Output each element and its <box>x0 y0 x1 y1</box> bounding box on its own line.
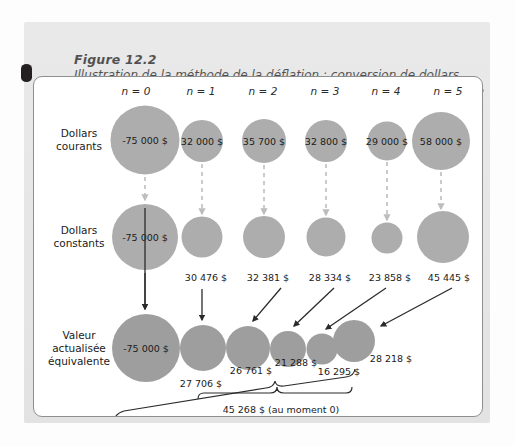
value-constants-n2: 32 381 $ <box>247 272 289 283</box>
bubble-value: 35 700 $ <box>243 136 285 147</box>
bubble-actualisee-n2 <box>226 326 270 370</box>
diagram-canvas: n = 0 n = 1 n = 2 n = 3 n = 4 n = 5 Doll… <box>33 76 483 417</box>
value-constants-n5: 45 445 $ <box>428 272 470 283</box>
value-constants-n3: 28 334 $ <box>309 272 351 283</box>
value-actualisee-n5: 28 218 $ <box>370 353 412 364</box>
value-constants-n1: 30 476 $ <box>185 272 227 283</box>
row-label-dollars-courants: Dollars courants <box>56 127 102 153</box>
value-actualisee-n2: 26 761 $ <box>230 365 272 376</box>
value-constants-n4: 23 858 $ <box>369 272 411 283</box>
bubble-value: 58 000 $ <box>420 136 462 147</box>
column-header-n0: n = 0 <box>122 85 151 97</box>
row-label-line1: Dollars <box>61 127 98 139</box>
row-label-dollars-constants: Dollars constants <box>53 224 104 250</box>
bubble-value: -75 000 $ <box>122 232 168 243</box>
value-actualisee-n4: 16 295 $ <box>318 366 360 377</box>
column-header-n5: n = 5 <box>434 85 463 97</box>
row-label-line1: Valeur <box>62 329 95 341</box>
row-label-line1: Dollars <box>61 224 98 236</box>
column-header-n4: n = 4 <box>372 85 401 97</box>
bubble-actualisee-n5 <box>333 320 375 362</box>
bubble-courants-n1: 32 000 $ <box>181 120 223 162</box>
bubble-value: -75 000 $ <box>123 343 169 354</box>
bubble-constants-n4 <box>372 223 403 254</box>
row-label-valeur-actualisee: Valeur actualisée équivalente <box>48 329 110 368</box>
bubble-courants-n4: 29 000 $ <box>368 122 407 161</box>
bubble-constants-n3 <box>307 218 346 257</box>
value-actualisee-n1: 27 706 $ <box>180 378 222 389</box>
row-label-line2: courants <box>56 140 102 152</box>
bubble-constants-n1 <box>182 217 223 258</box>
value-actualisee-n3: 21 288 $ <box>275 357 317 368</box>
bubble-courants-n3: 32 800 $ <box>305 120 347 162</box>
bubble-courants-n2: 35 700 $ <box>242 119 286 163</box>
bullet-tab-icon <box>21 64 32 82</box>
bubble-constants-n5 <box>417 211 469 263</box>
bubble-constants-n0: -75 000 $ <box>112 204 178 270</box>
bubble-value: 29 000 $ <box>366 136 408 147</box>
bubble-courants-n5: 58 000 $ <box>412 112 470 170</box>
row-label-line2: actualisée <box>52 342 106 354</box>
bubble-actualisee-n1 <box>180 325 226 371</box>
arrow-courants-to-constants <box>145 162 441 220</box>
figure-number: Figure 12.2 <box>74 52 157 67</box>
brace-inner <box>198 387 352 399</box>
column-header-n1: n = 1 <box>187 85 216 97</box>
figure-page: Figure 12.2 Illustration de la méthode d… <box>0 0 515 446</box>
bubble-value: -75 000 $ <box>122 135 168 146</box>
bubble-value: 32 800 $ <box>305 136 347 147</box>
bubble-actualisee-n0: -75 000 $ <box>112 314 180 382</box>
column-header-n3: n = 3 <box>311 85 340 97</box>
bubble-courants-n0: -75 000 $ <box>111 106 180 175</box>
column-header-n2: n = 2 <box>249 85 278 97</box>
bubble-value: 32 000 $ <box>181 136 223 147</box>
bubble-constants-n2 <box>243 216 285 258</box>
brace-total-label: 45 268 $ (au moment 0) <box>223 404 340 415</box>
row-label-line2: constants <box>53 237 104 249</box>
row-label-line3: équivalente <box>48 355 110 367</box>
